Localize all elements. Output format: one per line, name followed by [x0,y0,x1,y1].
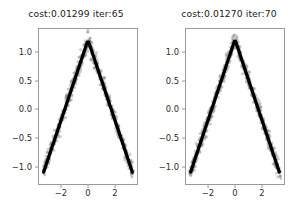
x-tick-mark [208,185,209,188]
x-tick-label: 0 [85,188,90,198]
x-tick-label: −2 [55,188,67,198]
subplot-right-title: cost:0.01270 iter:70 [153,8,305,19]
x-tick-label: 0 [232,188,237,198]
scatter-points-right [188,34,283,181]
y-tick-label: 0.0 [6,104,32,114]
y-tick-label: 1.0 [6,47,32,57]
fit-line-right [191,41,280,172]
y-tick-label: −0.5 [6,133,32,143]
y-tick-label: −1.0 [153,162,179,172]
y-tick-mark [182,52,185,53]
y-tick-label: 0.5 [6,76,32,86]
y-tick-label: −1.0 [6,162,32,172]
y-tick-label: 0.0 [153,104,179,114]
y-tick-mark [182,138,185,139]
scatter-points-left [42,29,135,179]
y-tick-mark [35,138,38,139]
y-tick-mark [35,109,38,110]
y-tick-label: −0.5 [153,133,179,143]
subplot-left-title: cost:0.01299 iter:65 [0,8,152,19]
subplot-right-axes [185,28,285,185]
y-tick-mark [182,166,185,167]
y-tick-mark [35,166,38,167]
y-tick-mark [35,80,38,81]
x-tick-mark [88,185,89,188]
x-tick-mark [262,185,263,188]
x-tick-mark [61,185,62,188]
y-tick-label: 1.0 [153,47,179,57]
subplot-right: cost:0.01270 iter:70 1.00.50.0−0.5−1.0−2… [153,0,305,223]
subplot-right-plot [186,29,284,184]
x-tick-label: 2 [259,188,264,198]
x-tick-label: 2 [112,188,117,198]
y-tick-mark [35,52,38,53]
figure-canvas: cost:0.01299 iter:65 1.00.50.0−0.5−1.0−2… [0,0,305,223]
subplot-left: cost:0.01299 iter:65 1.00.50.0−0.5−1.0−2… [0,0,152,223]
subplot-left-axes [38,28,138,185]
fit-line-left [44,42,133,172]
y-tick-label: 0.5 [153,76,179,86]
y-tick-mark [182,80,185,81]
x-tick-label: −2 [202,188,214,198]
subplot-left-plot [39,29,137,184]
x-tick-mark [235,185,236,188]
x-tick-mark [115,185,116,188]
y-tick-mark [182,109,185,110]
